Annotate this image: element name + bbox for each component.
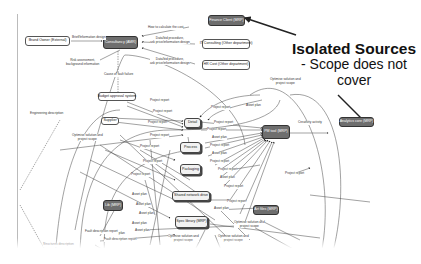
edge-label-line: ask price/information design xyxy=(150,62,190,66)
node-budget-approval[interactable]: Budget approval system xyxy=(98,92,136,101)
node-art-files[interactable]: Art files (MRP) xyxy=(253,205,279,215)
annotation-subtitle-1: - Scope does not xyxy=(287,57,421,72)
node-lib-db[interactable]: Lib (MRP) xyxy=(103,200,123,211)
edge-label-project-report: Project report xyxy=(207,128,226,132)
edge-label-project-report: Project report xyxy=(210,144,229,148)
edge-label-asset-plan: Asset plan xyxy=(132,193,147,197)
edge-label-project-report: Project report xyxy=(285,172,304,176)
edge-label-project-report: Project report xyxy=(148,121,167,125)
node-detail[interactable]: Detail xyxy=(184,118,201,128)
edge-label-project-report: Project report xyxy=(224,185,243,189)
annotation-title: Isolated Sources xyxy=(287,41,421,57)
edge-label-project-report: Project report xyxy=(214,121,233,125)
edge-label-line: ask price/information design xyxy=(150,41,190,45)
edge-label-optimise-bottom-3: Optimise solution and project scope xyxy=(234,221,265,228)
node-spec-library[interactable]: Spec library (MRP) xyxy=(175,216,208,228)
node-pm-tool[interactable]: PM tool (MRP) xyxy=(262,125,290,139)
edge-label-project-report: Project report xyxy=(140,145,159,149)
edge-label-bid-procedure-1: Data/bid procedure, ask price/informatio… xyxy=(150,37,190,44)
edge-label-project-report: Project report xyxy=(218,168,237,172)
annotation-subtitle-2: cover xyxy=(287,73,421,88)
node-packaging[interactable]: Packaging xyxy=(180,164,201,175)
edge-label-project-report: Project report xyxy=(131,173,150,177)
edge-label-fault-description: Fault description report xyxy=(85,230,118,234)
edge-label-asset-plan: Asset plan xyxy=(220,176,235,180)
edge-label-asset-plan: Asset plan xyxy=(135,229,150,233)
edge-label-asset-plan: Asset plan xyxy=(246,104,261,108)
edge-label-asset-plan: Asset plan xyxy=(132,222,147,226)
edge-label-asset-plan: Asset plan xyxy=(139,212,154,216)
node-finance-client[interactable]: Finance Client (MRP) xyxy=(208,15,245,26)
edge-label-line: project scope xyxy=(234,225,265,229)
edge-label-cause-of-fault: Cause of fault failure xyxy=(104,73,133,77)
edge-label-project-report: Project report xyxy=(211,106,230,110)
bottom-fade xyxy=(0,238,421,264)
edge-label-engineering: Engineering description xyxy=(30,112,63,116)
edge-label-creativity: Creativity activity xyxy=(298,121,322,125)
edge-label-calc-cost: How to calculate the cost xyxy=(148,26,183,30)
node-analytics-engine[interactable]: Analytics core (MRP) xyxy=(339,117,374,127)
edge-label-project-report: Project report xyxy=(150,99,169,103)
edge-label-asset-plan: Asset plan xyxy=(212,152,227,156)
edge-label-project-report: Project report xyxy=(227,200,246,204)
edge-label-asset-plan: Asset plan xyxy=(136,203,151,207)
edge-label-line: project scope xyxy=(72,138,103,142)
edge-label-project-report: Project report xyxy=(143,160,162,164)
node-process[interactable]: Process xyxy=(180,142,201,153)
edge-label-bid-procedure-2: Data/bid procedure, ask price/informatio… xyxy=(150,58,190,65)
edge-label-project-report: Project report xyxy=(153,110,172,114)
edge-label-asset-plan: Asset plan xyxy=(212,136,227,140)
edge-label-asset-plan: Asset plan xyxy=(214,207,229,211)
node-brand-owner[interactable]: Brand Owner (External) xyxy=(25,36,70,46)
node-supplier[interactable]: Supplier xyxy=(101,117,119,125)
node-consultancy[interactable]: Consultancy (AMR) xyxy=(103,36,138,49)
node-hr-cost[interactable]: HR Cost (Other department) xyxy=(202,60,250,70)
isolated-sources-annotation: Isolated Sources - Scope does not cover xyxy=(287,41,421,88)
edge-label-project-report: Project report xyxy=(210,160,229,164)
node-shared-network[interactable]: Shared network drive xyxy=(172,191,210,201)
edge-label-brief: Brief/Information design xyxy=(72,36,106,40)
edge-label-optimise: Optimise solution and project scope xyxy=(72,134,103,141)
edge-label-risk-assessment: Risk assessment, background information xyxy=(66,59,99,66)
node-it-consulting[interactable]: IT Consulting (Other department) xyxy=(202,39,250,49)
edge-label-project-report: Project report xyxy=(150,134,169,138)
edge-label-line: background information xyxy=(66,63,99,67)
diagram-canvas: Brand Owner (External) Consultancy (AMR)… xyxy=(0,0,421,264)
